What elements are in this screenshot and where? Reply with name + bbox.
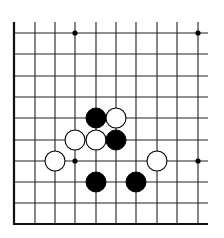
- stones-layer: [45, 108, 167, 192]
- black-stone: [106, 130, 126, 150]
- white-stone: [106, 108, 126, 128]
- white-stone: [65, 130, 85, 150]
- black-stone: [86, 172, 106, 192]
- star-point-icon: [72, 30, 77, 35]
- star-point-icon: [72, 158, 77, 163]
- white-stone: [147, 151, 167, 171]
- star-point-icon: [195, 30, 200, 35]
- black-stone: [86, 108, 106, 128]
- black-stone: [126, 172, 146, 192]
- go-board: [0, 0, 224, 238]
- white-stone: [45, 151, 65, 171]
- star-point-icon: [195, 158, 200, 163]
- white-stone: [86, 130, 106, 150]
